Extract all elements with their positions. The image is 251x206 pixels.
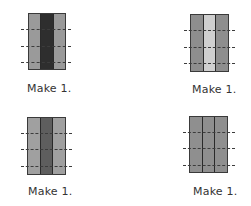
- fold-line: [183, 165, 235, 166]
- strip-right: [214, 117, 227, 172]
- strip-set-4: Make 1.: [0, 0, 251, 206]
- strip-center: [202, 117, 215, 172]
- fold-line: [183, 132, 235, 133]
- strip-left: [190, 117, 202, 172]
- caption: Make 1.: [193, 185, 237, 198]
- fold-line: [183, 148, 235, 149]
